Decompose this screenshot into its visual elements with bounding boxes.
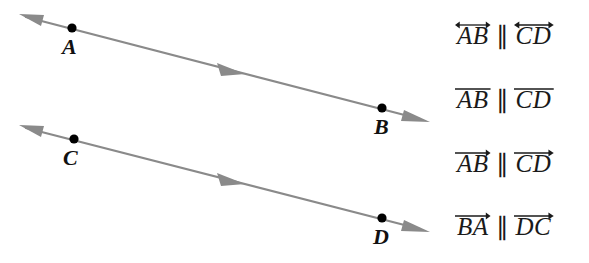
option-4-left-text: BA [457, 213, 489, 240]
answer-option-4[interactable]: BA ∥ DC [455, 205, 589, 249]
line-ab-direction-marker [217, 63, 245, 76]
geometry-figure: A B C D AB ∥ [0, 0, 589, 263]
point-a-label: A [62, 36, 77, 58]
answer-choice-list: AB ∥ CD [455, 0, 589, 263]
line-cd-group [19, 125, 430, 232]
option-2-right-text: CD [516, 86, 552, 113]
line-cd-right-arrowhead [401, 220, 430, 232]
option-3-left-text: AB [457, 150, 489, 177]
option-3-left-term: AB [455, 151, 491, 177]
option-1-left-text: AB [457, 22, 489, 49]
line-cd-left-arrowhead [19, 125, 44, 137]
line-cd-direction-marker [217, 173, 245, 186]
answer-option-3[interactable]: AB ∥ CD [455, 142, 589, 186]
parallel-symbol: ∥ [496, 21, 509, 50]
option-4-left-term: BA [455, 214, 491, 240]
point-c-label: C [63, 147, 78, 169]
line-ab-right-arrowhead [401, 110, 430, 122]
answer-option-1[interactable]: AB ∥ CD [455, 14, 589, 58]
point-c-dot [69, 134, 78, 143]
line-ab-group [19, 14, 430, 122]
line-ab-left-arrowhead [19, 14, 44, 26]
parallel-symbol: ∥ [496, 212, 509, 241]
option-1-right-term: CD [514, 23, 554, 49]
option-4-right-term: DC [514, 214, 554, 240]
answer-option-2[interactable]: AB ∥ CD [455, 78, 589, 122]
option-1-left-term: AB [455, 23, 491, 49]
parallel-symbol: ∥ [496, 149, 509, 178]
point-d-label: D [373, 226, 389, 248]
option-2-right-term: CD [514, 87, 554, 113]
option-1-right-text: CD [516, 22, 552, 49]
option-3-right-term: CD [514, 151, 554, 177]
point-a-dot [67, 23, 76, 32]
point-b-dot [377, 103, 386, 112]
option-4-right-text: DC [516, 213, 552, 240]
option-2-left-term: AB [455, 87, 491, 113]
option-3-right-text: CD [516, 150, 552, 177]
point-d-dot [377, 213, 386, 222]
point-b-label: B [374, 116, 389, 138]
option-2-left-text: AB [457, 86, 489, 113]
parallel-symbol: ∥ [496, 85, 509, 114]
